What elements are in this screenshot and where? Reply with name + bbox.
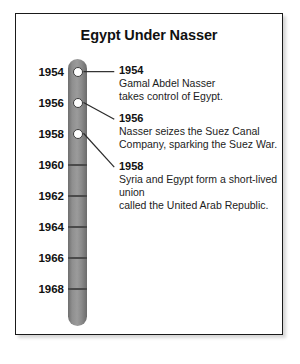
- axis-year-label: 1954: [38, 66, 64, 78]
- axis-tick: [68, 195, 87, 197]
- event-description: Gamal Abdel Nasser takes control of Egyp…: [119, 77, 223, 103]
- event-year: 1956: [119, 112, 277, 125]
- axis-year-label: 1958: [38, 128, 64, 140]
- axis-year-label: 1960: [38, 159, 64, 171]
- axis-tick: [68, 226, 87, 228]
- timeline-card: Egypt Under Nasser 195419561958196019621…: [15, 13, 283, 335]
- event-year: 1954: [119, 64, 223, 77]
- timeline-bar: [68, 59, 87, 326]
- event-marker[interactable]: [73, 129, 83, 139]
- event-description: Nasser seizes the Suez Canal Company, sp…: [119, 125, 277, 151]
- leader-line-1956: [83, 102, 114, 119]
- leader-line-1958: [83, 133, 114, 167]
- axis-year-label: 1962: [38, 190, 64, 202]
- event-year: 1958: [119, 160, 282, 173]
- axis-year-label: 1956: [38, 97, 64, 109]
- year-axis-labels: 19541956195819601962196419661968: [16, 14, 64, 334]
- event-block: 1954 Gamal Abdel Nasser takes control of…: [119, 64, 223, 103]
- event-description: Syria and Egypt form a short-lived union…: [119, 173, 282, 213]
- axis-year-label: 1966: [38, 252, 64, 264]
- event-block: 1958 Syria and Egypt form a short-lived …: [119, 160, 282, 213]
- event-block: 1956 Nasser seizes the Suez Canal Compan…: [119, 112, 277, 151]
- event-marker[interactable]: [73, 98, 83, 108]
- axis-tick: [68, 164, 87, 166]
- axis-year-label: 1968: [38, 283, 64, 295]
- event-marker[interactable]: [73, 67, 83, 77]
- axis-tick: [68, 288, 87, 290]
- axis-tick: [68, 257, 87, 259]
- axis-year-label: 1964: [38, 221, 64, 233]
